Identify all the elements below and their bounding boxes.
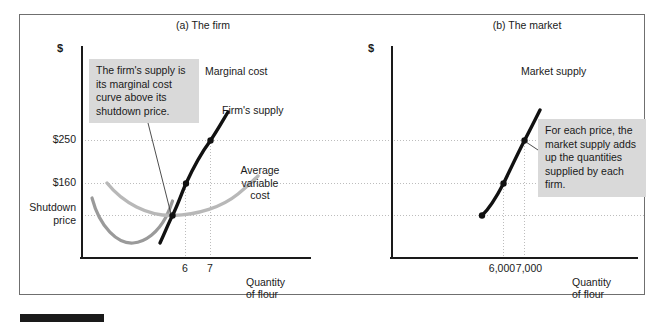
curve-label-market-supply: Market supply [521, 65, 586, 78]
curve-label-avc-line1: Average [230, 164, 290, 177]
x-tick-label-6: 6 [175, 262, 195, 274]
panel-b-x-axis-label: Quantity of flour [572, 276, 611, 300]
panel-a-title: (a) The firm [128, 19, 278, 31]
y-tick-label-160: $160 [6, 176, 76, 188]
bottom-accent-bar [20, 314, 104, 322]
callout-firm-supply: The firm's supply is its marginal cost c… [89, 59, 199, 123]
curve-label-avc-line2: variable [230, 177, 290, 190]
callout-market-supply: For each price, the market supply adds u… [538, 119, 646, 197]
panel-b-x-axis-label-line2: of flour [572, 288, 611, 300]
panel-a-x-axis-label-line2: of flour [246, 288, 285, 300]
panel-a-x-axis-label-line1: Quantity [246, 276, 285, 288]
x-tick-label-7: 7 [200, 262, 220, 274]
economics-figure: (a) The firm (b) The market $ $ $250 $16… [0, 0, 662, 329]
curve-label-marginal-cost: Marginal cost [205, 65, 267, 78]
panel-a-y-axis-symbol: $ [57, 42, 63, 54]
panel-a-x-axis-label: Quantity of flour [246, 276, 285, 300]
y-tick-label-shutdown-line2: price [6, 214, 76, 227]
y-tick-label-shutdown-line1: Shutdown [6, 201, 76, 214]
curve-label-average-variable-cost: Average variable cost [230, 164, 290, 202]
panel-b-title: (b) The market [452, 19, 602, 31]
x-tick-label-7000: 7,000 [505, 262, 553, 274]
curve-label-firms-supply: Firm's supply [222, 104, 284, 117]
curve-label-avc-line3: cost [230, 189, 290, 202]
panel-b-y-axis-symbol: $ [368, 42, 374, 54]
panel-b-x-axis-label-line1: Quantity [572, 276, 611, 288]
y-tick-label-250: $250 [6, 133, 76, 145]
y-tick-label-shutdown-price: Shutdown price [6, 201, 76, 227]
